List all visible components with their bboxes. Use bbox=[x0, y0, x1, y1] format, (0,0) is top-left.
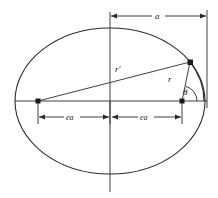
radius-label: r bbox=[168, 74, 172, 84]
angle-theta-label: θ bbox=[183, 87, 188, 97]
left-focal-distance-label: ea bbox=[66, 113, 74, 122]
orbit-point-marker bbox=[188, 60, 194, 66]
ellipse-diagram: a ea ea r' r θ bbox=[0, 0, 218, 198]
ellipse-diagram-canvas: a ea ea r' r θ bbox=[0, 0, 218, 198]
left-focus-marker bbox=[36, 99, 41, 104]
right-focal-distance-label: ea bbox=[140, 113, 148, 122]
semi-major-axis-label: a bbox=[155, 11, 160, 21]
right-focus-marker bbox=[180, 99, 185, 104]
